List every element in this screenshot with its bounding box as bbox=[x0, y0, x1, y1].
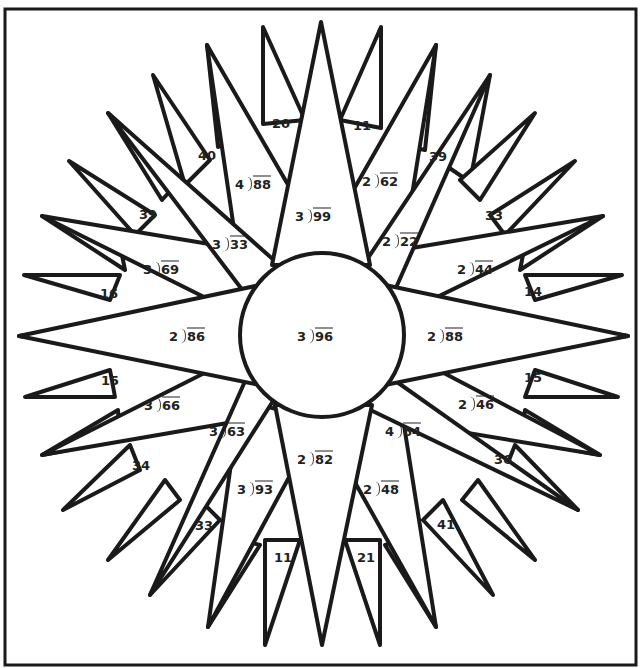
answer-region: 34 bbox=[132, 459, 150, 472]
problem-north-west: 333 bbox=[212, 236, 248, 251]
problem-ene: 244 bbox=[457, 261, 493, 276]
answer-region: 15 bbox=[101, 374, 119, 387]
problem-east: 288 bbox=[427, 328, 463, 343]
problem-wnw: 369 bbox=[143, 261, 179, 276]
problem-sse: 248 bbox=[363, 481, 399, 496]
problem-ssw: 393 bbox=[237, 481, 273, 496]
answer-region: 11 bbox=[274, 551, 292, 564]
problem-south: 282 bbox=[297, 451, 333, 466]
answer-region: 39 bbox=[429, 150, 447, 163]
problem-south-west: 363 bbox=[209, 423, 245, 438]
answer-region: 20 bbox=[272, 117, 290, 130]
worksheet-page: 396 399 288 282 286 222 484 363 333 488 … bbox=[0, 0, 643, 668]
answer-region: 15 bbox=[524, 371, 542, 384]
answer-region: 33 bbox=[195, 519, 213, 532]
answer-region: 39 bbox=[139, 208, 157, 221]
problem-west: 286 bbox=[169, 328, 205, 343]
answer-region: 16 bbox=[100, 287, 118, 300]
problem-nne: 262 bbox=[362, 173, 398, 188]
problem-nnw: 488 bbox=[235, 176, 271, 191]
answer-region: 33 bbox=[485, 209, 503, 222]
problem-north: 399 bbox=[295, 208, 331, 223]
answer-region: 21 bbox=[357, 551, 375, 564]
problem-wsw: 366 bbox=[144, 397, 180, 412]
center-problem: 396 bbox=[297, 328, 333, 343]
problem-north-east: 222 bbox=[382, 233, 418, 248]
answer-region: 40 bbox=[198, 149, 216, 162]
problem-south-east: 484 bbox=[385, 423, 421, 438]
answer-region: 36 bbox=[494, 453, 512, 466]
answer-region: 41 bbox=[437, 518, 455, 531]
problem-ese: 246 bbox=[458, 396, 494, 411]
answer-region: 14 bbox=[524, 285, 542, 298]
answer-region: 11 bbox=[353, 119, 371, 132]
